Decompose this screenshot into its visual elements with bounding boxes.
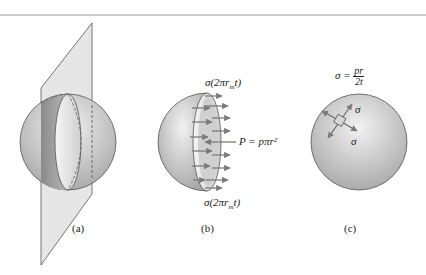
stress-formula: σ = pr 2t	[335, 66, 364, 87]
caption-a: (a)	[72, 222, 84, 234]
pressure-force-label: P = pπr²	[239, 135, 277, 147]
caption-c: (c)	[344, 222, 356, 234]
caption-b: (b)	[201, 222, 214, 234]
bottom-force-label: σ(2πrmt)	[204, 196, 240, 211]
formula-lhs: σ =	[335, 69, 351, 81]
panel-b	[158, 93, 236, 191]
sigma-top-label: σ	[355, 103, 360, 115]
formula-denominator: 2t	[355, 77, 363, 87]
sigma-bottom-label: σ	[351, 135, 356, 147]
formula-fraction: pr 2t	[353, 66, 364, 87]
panel-a	[20, 23, 116, 265]
cut-face-ellipse	[55, 94, 81, 190]
top-force-label: σ(2πrmt)	[205, 76, 241, 91]
